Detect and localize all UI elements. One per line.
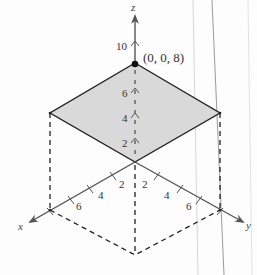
y-axis-label: y [245,219,251,231]
z-tick-6: 6 [122,87,128,99]
background-lines [193,0,252,275]
z-tick-4: 4 [122,112,128,124]
y-axis [135,162,243,222]
y-tick-6: 6 [186,200,192,212]
x-tick-2: 2 [119,178,125,190]
z-tick-2: 2 [122,137,128,149]
y-tick-4: 4 [164,189,170,201]
x-axis [30,162,135,222]
z-tick-10: 10 [116,40,128,52]
point-label: (0, 0, 8) [143,50,184,65]
plane-diagram: z 10 6 4 2 (0, 0, 8) x 2 4 6 y 2 4 6 [0,0,257,275]
x-tick-4: 4 [98,189,104,201]
point-marker [132,61,139,68]
x-axis-label: x [17,220,23,232]
y-tick-2: 2 [142,178,148,190]
x-tick-6: 6 [76,200,82,212]
figure-canvas: z 10 6 4 2 (0, 0, 8) x 2 4 6 y 2 4 6 [0,0,257,275]
z-axis-label: z [130,1,136,13]
